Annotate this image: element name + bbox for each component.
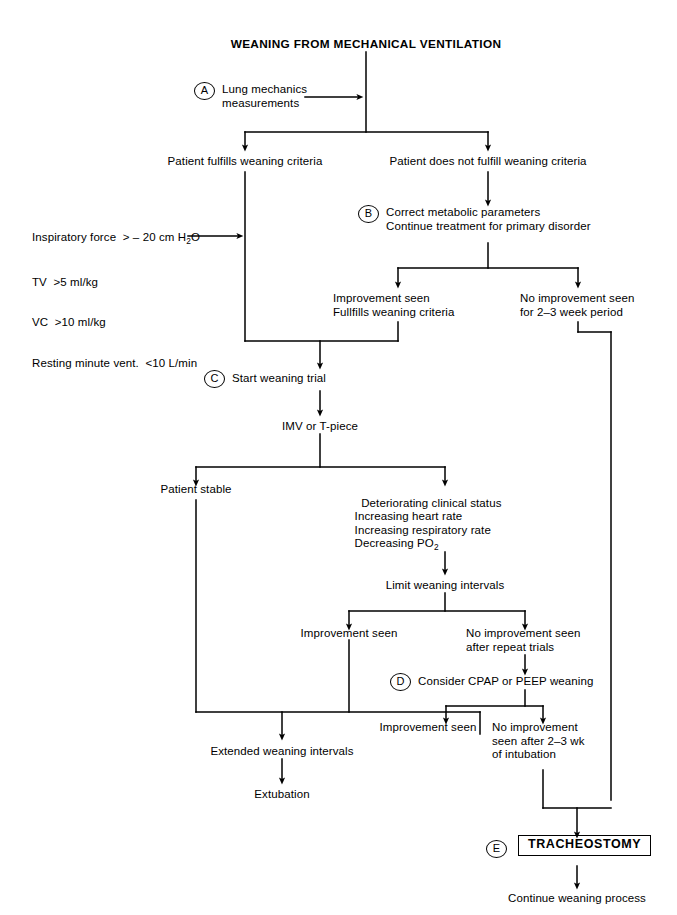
node-patient-fulfills: Patient fulfills weaning criteria [168,155,323,169]
node-continue-weaning-process: Continue weaning process [508,892,646,906]
node-tracheostomy: TRACHEOSTOMY [518,835,651,856]
node-no-improvement-intubation: No improvement seen after 2–3 wk of intu… [492,721,584,762]
marker-c-icon: C [204,370,225,388]
node-lung-mechanics: Lung mechanics measurements [222,83,307,110]
criteria-block: Inspiratory force > – 20 cm H2O TV >5 ml… [32,204,200,397]
node-no-improvement-repeat: No improvement seen after repeat trials [466,627,580,654]
marker-a-icon: A [194,82,215,100]
criteria-line-2: TV >5 ml/kg [32,276,200,290]
node-patient-not-fulfills: Patient does not fulfill weaning criteri… [389,155,586,169]
node-no-improvement-weeks: No improvement seen for 2–3 week period [520,292,634,319]
node-improvement-seen-1: Improvement seen [301,627,398,641]
marker-e-icon: E [486,840,507,858]
node-improvement-seen-2: Improvement seen [380,721,477,735]
node-start-weaning-trial: Start weaning trial [232,372,326,386]
node-patient-stable: Patient stable [160,483,231,497]
criteria-line-3: VC >10 ml/kg [32,316,200,330]
criteria-line-4: Resting minute vent. <10 L/min [32,357,200,371]
node-extended-weaning-intervals: Extended weaning intervals [210,745,353,759]
node-improvement-fulfills: Improvement seen Fullfills weaning crite… [333,292,454,319]
marker-b-icon: B [358,205,379,223]
criteria-line-1: Inspiratory force > – 20 cm H2O [32,231,200,249]
node-deteriorating: Deteriorating clinical status Increasing… [348,483,502,568]
node-limit-weaning-intervals: Limit weaning intervals [386,579,505,593]
node-imv-tpiece: IMV or T-piece [282,420,358,434]
node-correct-metabolic: Correct metabolic parameters Continue tr… [386,206,591,233]
marker-d-icon: D [390,673,411,691]
flowchart-canvas: WEANING FROM MECHANICAL VENTILATION A Lu… [0,0,677,915]
diagram-title: WEANING FROM MECHANICAL VENTILATION [231,38,502,52]
flowchart-connectors [0,0,677,915]
node-extubation: Extubation [254,788,309,802]
node-consider-cpap-peep: Consider CPAP or PEEP weaning [418,675,594,689]
